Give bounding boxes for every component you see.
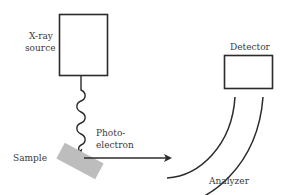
detector-box [225, 56, 273, 89]
analyzer-label: Analyzer [209, 176, 249, 187]
xray-source-box [60, 15, 108, 76]
sample-label: Sample [13, 153, 47, 164]
xray-beam-wavy-arrow [77, 76, 85, 155]
xps-diagram [0, 0, 289, 195]
photoelectron-label-line1: Photo- [96, 128, 125, 139]
detector-label: Detector [230, 42, 270, 53]
photoelectron-label-line2: electron [96, 140, 134, 151]
xray-source-label-line2: source [25, 43, 56, 54]
xray-source-label-line1: X-ray [29, 31, 53, 42]
analyzer-inner-arc [167, 97, 235, 178]
